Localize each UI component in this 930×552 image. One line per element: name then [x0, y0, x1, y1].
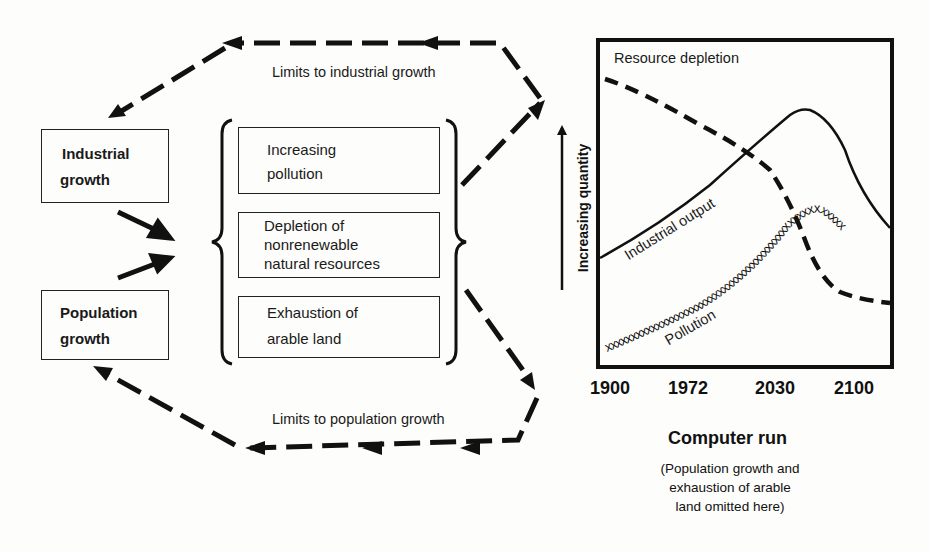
- input-arrows: [118, 212, 170, 278]
- top-feedback-loop: [115, 43, 540, 185]
- chart-frame: [598, 40, 892, 367]
- chart-subtitle-3: land omitted here): [645, 499, 815, 514]
- bottom-feedback-loop: [100, 290, 537, 448]
- right-brace: [446, 120, 466, 364]
- pollution-curve: xxxxxxxxxxxxxxxxxxxxxxxxxxxxxxxxxxxxxxxx…: [602, 201, 850, 355]
- left-brace: [212, 120, 232, 364]
- chart-subtitle-1: (Population growth and: [645, 461, 815, 476]
- x-tick-1972: 1972: [668, 378, 708, 399]
- y-axis-label: Increasing quantity: [575, 144, 591, 272]
- chart-title: Computer run: [668, 428, 787, 449]
- resource-depletion-label: Resource depletion: [614, 50, 739, 66]
- chart-subtitle-2: exhaustion of arable: [645, 480, 815, 495]
- x-tick-2100: 2100: [834, 378, 874, 399]
- x-tick-2030: 2030: [755, 378, 795, 399]
- x-tick-1900: 1900: [590, 378, 630, 399]
